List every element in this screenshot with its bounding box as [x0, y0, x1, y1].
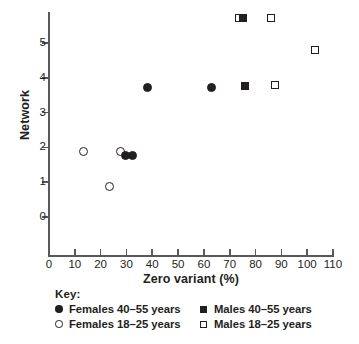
- data-point: [143, 83, 152, 92]
- legend-entry-males-40-55: Males 40–55 years: [200, 303, 345, 315]
- legend-entry-label: Females 18–25 years: [69, 318, 180, 330]
- x-axis-tick: [255, 249, 257, 255]
- x-axis-tick: [229, 249, 231, 255]
- x-axis-tick: [151, 249, 153, 255]
- legend-entry-males-18-25: Males 18–25 years: [200, 318, 345, 330]
- x-axis-line: [48, 255, 334, 257]
- y-axis-tick-label: 0: [22, 211, 46, 223]
- data-point: [207, 83, 216, 92]
- x-axis-tick: [48, 249, 50, 255]
- y-axis-line: [48, 12, 50, 256]
- x-axis-tick: [177, 249, 179, 255]
- y-axis-tick-label: 1: [22, 176, 46, 188]
- legend-entry-label: Males 18–25 years: [214, 318, 312, 330]
- legend-row: Females 40–55 years Males 40–55 years: [55, 302, 355, 316]
- legend-entry-females-18-25: Females 18–25 years: [55, 318, 200, 330]
- legend-title: Key:: [55, 288, 355, 300]
- legend-entry-females-40-55: Females 40–55 years: [55, 303, 200, 315]
- x-axis-tick: [100, 249, 102, 255]
- data-point: [79, 147, 88, 156]
- square-filled-icon: [200, 303, 214, 315]
- data-point: [267, 14, 275, 22]
- chart-legend: Key: Females 40–55 years Males 40–55 yea…: [55, 288, 355, 332]
- data-point: [271, 81, 279, 89]
- x-axis-tick: [281, 249, 283, 255]
- y-axis-tick-label: 3: [22, 107, 46, 119]
- scatter-chart-figure: Network Zero variant (%) 543210010203040…: [0, 0, 359, 344]
- legend-entry-label: Females 40–55 years: [69, 303, 180, 315]
- data-point: [128, 151, 137, 160]
- legend-entry-label: Males 40–55 years: [214, 303, 312, 315]
- x-axis-tick: [126, 249, 128, 255]
- data-point: [311, 46, 319, 54]
- legend-row: Females 18–25 years Males 18–25 years: [55, 317, 355, 331]
- circle-open-icon: [55, 318, 69, 330]
- y-axis-tick-label: 2: [22, 141, 46, 153]
- x-axis-tick: [74, 249, 76, 255]
- y-axis-tick-label: 5: [22, 37, 46, 49]
- data-point: [239, 14, 247, 22]
- square-open-icon: [200, 318, 214, 330]
- x-axis-tick: [203, 249, 205, 255]
- circle-filled-icon: [55, 303, 69, 315]
- x-axis-title: Zero variant (%): [49, 272, 333, 286]
- data-point: [241, 82, 249, 90]
- x-axis-tick-label: 110: [318, 259, 348, 271]
- x-axis-tick: [306, 249, 308, 255]
- y-axis-tick-label: 4: [22, 72, 46, 84]
- data-point: [105, 182, 114, 191]
- x-axis-tick: [332, 249, 334, 255]
